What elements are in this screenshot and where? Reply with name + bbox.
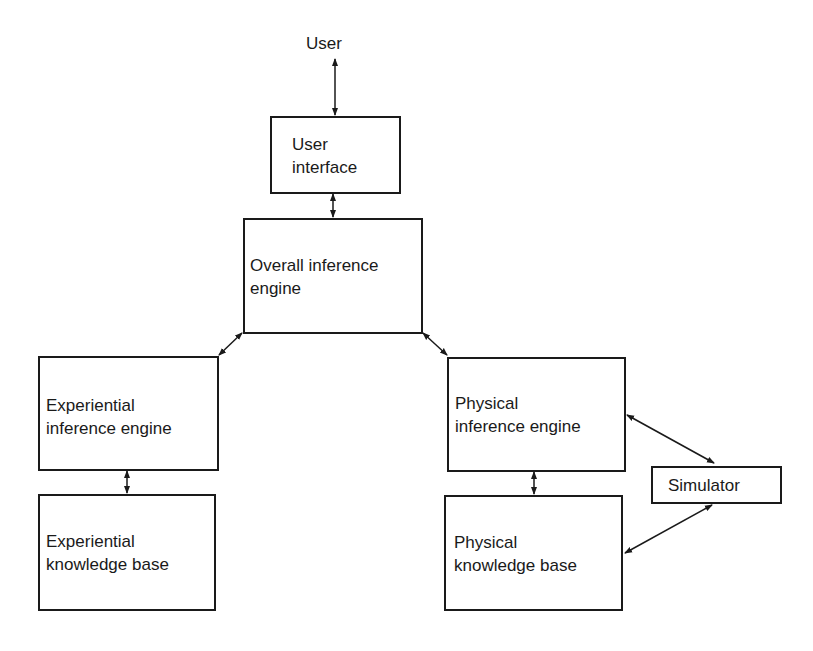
user-interface-label-2: interface xyxy=(292,156,357,179)
exp-kb-label-1: Experiential xyxy=(46,530,135,553)
overall-engine-label-2: engine xyxy=(250,277,301,300)
exp-engine-label-2: inference engine xyxy=(46,417,172,440)
exp-kb-label-2: knowledge base xyxy=(46,553,169,576)
simulator-label: Simulator xyxy=(668,474,740,497)
phys-kb-label-1: Physical xyxy=(454,531,517,554)
phys-engine-label-2: inference engine xyxy=(455,415,581,438)
user-label: User xyxy=(306,34,342,54)
overall-inference-engine-box: Overall inference engine xyxy=(243,218,423,334)
edge-phys-sim xyxy=(627,415,714,463)
experiential-knowledge-base-box: Experiential knowledge base xyxy=(38,494,216,611)
edge-overall-exp xyxy=(219,333,242,355)
user-interface-label-1: User xyxy=(292,133,328,156)
exp-engine-label-1: Experiential xyxy=(46,394,135,417)
physical-knowledge-base-box: Physical knowledge base xyxy=(444,495,623,611)
phys-engine-label-1: Physical xyxy=(455,392,518,415)
overall-engine-label-1: Overall inference xyxy=(250,254,379,277)
edge-kb-sim xyxy=(625,505,712,553)
edge-overall-phys xyxy=(423,333,447,355)
experiential-inference-engine-box: Experiential inference engine xyxy=(38,356,219,471)
physical-inference-engine-box: Physical inference engine xyxy=(447,357,626,472)
user-interface-box: User interface xyxy=(270,116,401,194)
simulator-box: Simulator xyxy=(651,466,782,504)
phys-kb-label-2: knowledge base xyxy=(454,554,577,577)
